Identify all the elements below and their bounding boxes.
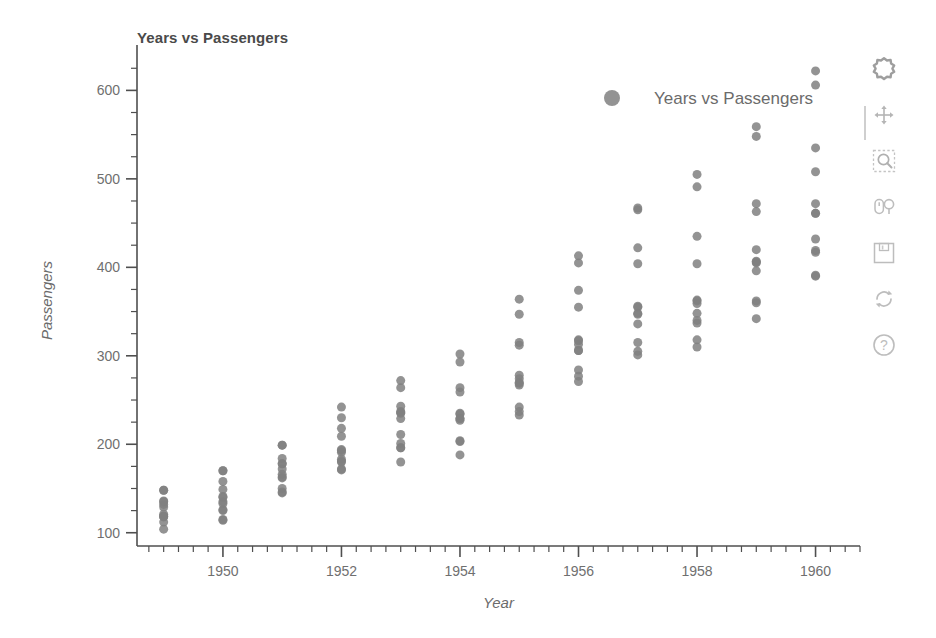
data-point <box>337 432 346 441</box>
data-point <box>752 266 761 275</box>
svg-text:?: ? <box>880 337 888 353</box>
data-point <box>515 310 524 319</box>
data-point <box>278 441 287 450</box>
data-point <box>633 243 642 252</box>
data-point <box>337 465 346 474</box>
data-point <box>455 414 464 423</box>
data-point <box>515 371 524 380</box>
data-point <box>752 258 761 267</box>
data-point <box>515 407 524 416</box>
data-point <box>455 357 464 366</box>
data-point <box>396 376 405 385</box>
x-tick-label: 1956 <box>563 563 594 579</box>
data-point <box>574 303 583 312</box>
data-point <box>337 445 346 454</box>
data-point <box>455 437 464 446</box>
data-point <box>574 335 583 344</box>
data-point <box>752 122 761 131</box>
scatter-plot-canvas[interactable]: 1002003004005006001950195219541956195819… <box>0 0 936 638</box>
data-point <box>515 341 524 350</box>
data-point <box>159 486 168 495</box>
data-point <box>752 207 761 216</box>
data-point <box>218 485 227 494</box>
plot-toolbar[interactable]: ? <box>862 52 906 374</box>
x-tick-label: 1960 <box>800 563 831 579</box>
x-tick-label: 1952 <box>326 563 357 579</box>
y-tick-label: 500 <box>97 171 121 187</box>
data-point <box>574 258 583 267</box>
data-point <box>278 454 287 463</box>
data-points-layer <box>159 66 820 533</box>
bokeh-logo-icon[interactable] <box>867 52 901 86</box>
data-point <box>337 403 346 412</box>
x-tick-label: 1950 <box>207 563 238 579</box>
box-zoom-tool-icon[interactable] <box>867 144 901 178</box>
data-point <box>811 235 820 244</box>
data-point <box>574 377 583 386</box>
data-point <box>693 170 702 179</box>
data-point <box>693 342 702 351</box>
data-point <box>278 470 287 479</box>
data-point <box>693 182 702 191</box>
data-point <box>752 296 761 305</box>
data-point <box>811 209 820 218</box>
x-axis-title: Year <box>483 594 515 611</box>
help-tool-icon[interactable]: ? <box>867 328 901 362</box>
data-point <box>396 457 405 466</box>
legend-marker-icon <box>604 90 620 106</box>
data-point <box>752 245 761 254</box>
data-point <box>693 259 702 268</box>
data-point <box>159 525 168 534</box>
data-point <box>278 488 287 497</box>
data-point <box>337 424 346 433</box>
y-tick-label: 100 <box>97 525 121 541</box>
data-point <box>811 143 820 152</box>
data-point <box>693 309 702 318</box>
data-point <box>515 295 524 304</box>
data-point <box>811 167 820 176</box>
data-point <box>811 272 820 281</box>
x-tick-label: 1954 <box>444 563 475 579</box>
data-point <box>633 310 642 319</box>
axes-layer: 1002003004005006001950195219541956195819… <box>97 45 860 579</box>
data-point <box>752 132 761 141</box>
data-point <box>693 299 702 308</box>
data-point <box>693 232 702 241</box>
bokeh-plot: Years vs Passengers 10020030040050060019… <box>0 0 936 638</box>
data-point <box>159 512 168 521</box>
data-point <box>218 477 227 486</box>
data-point <box>455 388 464 397</box>
data-point <box>159 496 168 505</box>
data-point <box>218 516 227 525</box>
data-point <box>633 204 642 213</box>
y-tick-label: 400 <box>97 259 121 275</box>
data-point <box>633 259 642 268</box>
data-point <box>455 350 464 359</box>
data-point <box>574 286 583 295</box>
data-point <box>633 338 642 347</box>
data-point <box>752 199 761 208</box>
data-point <box>811 66 820 75</box>
data-point <box>811 199 820 208</box>
chart-legend[interactable]: Years vs Passengers <box>604 89 813 108</box>
data-point <box>633 347 642 356</box>
data-point <box>396 430 405 439</box>
y-axis-title: Passengers <box>38 260 55 340</box>
data-point <box>337 413 346 422</box>
data-point <box>455 450 464 459</box>
data-point <box>218 493 227 502</box>
data-point <box>574 346 583 355</box>
reset-tool-icon[interactable] <box>867 282 901 316</box>
data-point <box>396 407 405 416</box>
data-point <box>218 466 227 475</box>
data-point <box>633 319 642 328</box>
wheel-zoom-tool-icon[interactable] <box>867 190 901 224</box>
save-tool-icon[interactable] <box>867 236 901 270</box>
data-point <box>693 319 702 328</box>
y-tick-label: 200 <box>97 436 121 452</box>
data-point <box>811 246 820 255</box>
pan-tool-icon[interactable] <box>867 98 901 132</box>
x-tick-label: 1958 <box>681 563 712 579</box>
data-point <box>752 314 761 323</box>
data-point <box>396 439 405 448</box>
